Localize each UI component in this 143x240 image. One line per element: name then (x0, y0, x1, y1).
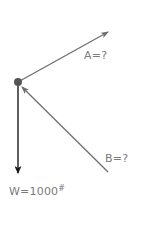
weight-label: W=1000# (9, 185, 65, 197)
node-point (14, 78, 22, 86)
weight-value: W=1000 (9, 185, 58, 198)
vector-b-arrow (22, 87, 108, 172)
vector-b-label: B=? (105, 153, 128, 164)
weight-unit-pound-symbol: # (58, 184, 65, 193)
vector-a-label: A=? (84, 50, 107, 61)
